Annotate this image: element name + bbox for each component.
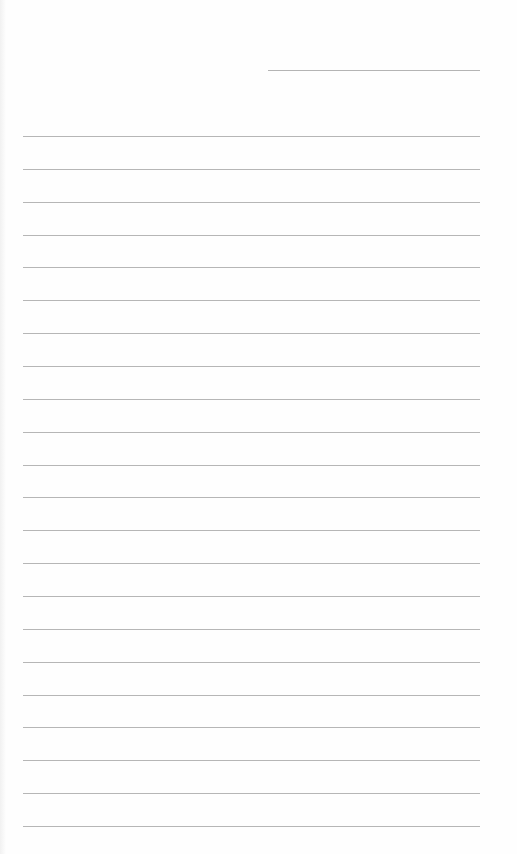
header-name-line [268, 70, 480, 71]
ruled-line [23, 366, 480, 367]
page-edge-shadow [0, 0, 6, 854]
ruled-line [23, 267, 480, 268]
ruled-line [23, 727, 480, 728]
ruled-line [23, 465, 480, 466]
ruled-line [23, 202, 480, 203]
ruled-line [23, 432, 480, 433]
ruled-line [23, 793, 480, 794]
ruled-line [23, 695, 480, 696]
ruled-line [23, 169, 480, 170]
lined-paper-page [0, 0, 517, 854]
ruled-line [23, 629, 480, 630]
ruled-line [23, 662, 480, 663]
ruled-line [23, 563, 480, 564]
ruled-line [23, 497, 480, 498]
ruled-line [23, 300, 480, 301]
ruled-line [23, 596, 480, 597]
ruled-line [23, 399, 480, 400]
ruled-line [23, 235, 480, 236]
ruled-line [23, 530, 480, 531]
ruled-line [23, 826, 480, 827]
ruled-line [23, 333, 480, 334]
ruled-line [23, 760, 480, 761]
ruled-line [23, 136, 480, 137]
